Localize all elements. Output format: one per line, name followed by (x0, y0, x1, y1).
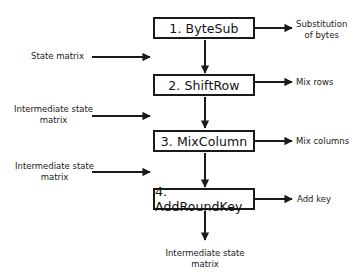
label-line: Intermediate state (165, 248, 245, 259)
label-line: matrix (165, 259, 245, 270)
step-label: 2. ShiftRow (168, 78, 239, 93)
output-label-4: Add key (297, 194, 331, 205)
label-line: Mix rows (296, 77, 333, 88)
input-label-3: Intermediate state matrix (15, 161, 94, 183)
label-line: matrix (14, 115, 93, 126)
label-line: matrix (15, 172, 94, 183)
step-label: 1. ByteSub (169, 21, 238, 36)
label-line: Intermediate state (14, 104, 93, 115)
input-label-1: State matrix (31, 51, 84, 62)
label-line: State matrix (31, 51, 84, 62)
step-mixcolumn-box: 3. MixColumn (153, 130, 255, 152)
step-addroundkey-box: 4. AddRoundKey (153, 188, 255, 210)
output-label-1: Substitution of bytes (296, 19, 347, 41)
step-shiftrow-box: 2. ShiftRow (153, 74, 255, 96)
label-line: Mix columns (296, 136, 349, 147)
label-line: Add key (297, 194, 331, 205)
label-line: of bytes (296, 30, 347, 41)
step-bytesub-box: 1. ByteSub (153, 17, 255, 39)
step-label: 3. MixColumn (161, 134, 248, 149)
step-label: 4. AddRoundKey (155, 184, 253, 214)
input-label-2: Intermediate state matrix (14, 104, 93, 126)
final-output-label: Intermediate state matrix (165, 248, 245, 270)
output-label-3: Mix columns (296, 136, 349, 147)
label-line: Substitution (296, 19, 347, 30)
output-label-2: Mix rows (296, 77, 333, 88)
label-line: Intermediate state (15, 161, 94, 172)
